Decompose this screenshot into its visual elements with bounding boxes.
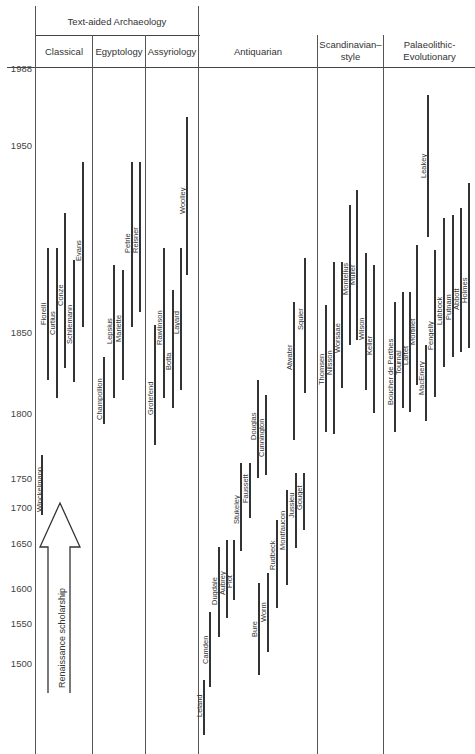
- col-divider-5: [383, 35, 384, 754]
- scholar-label: Müller: [349, 265, 357, 285]
- scholar-label: Evans: [75, 240, 83, 261]
- column-header-egyptology: Egyptology: [93, 46, 145, 57]
- group-header-text-aided: Text-aided Archaeology: [36, 16, 198, 27]
- y-tick-label: 1950: [0, 140, 32, 151]
- y-tick-label: 1988: [0, 63, 32, 74]
- scholar-label: Rudbeck: [269, 540, 277, 570]
- scholar-label: Stukeley: [233, 495, 241, 524]
- column-header-palaeolithic-line2: Evolutionary: [384, 51, 475, 62]
- scholar-label: Schliemann: [66, 305, 74, 344]
- lifespan-bar: [293, 302, 295, 440]
- scholar-label: Camden: [202, 636, 210, 664]
- lifespan-bar: [172, 290, 174, 408]
- scholar-label: Montfaucon: [279, 511, 287, 550]
- header-divider-mid: [7, 67, 475, 68]
- scholar-label: Conze: [57, 284, 65, 306]
- scholar-label: Bure: [251, 621, 259, 637]
- scholar-label: Botta: [165, 352, 173, 370]
- axis-line: [35, 6, 36, 754]
- column-header-palaeolithic-line1: Palaeolithic-: [384, 39, 475, 50]
- y-tick-label: 1850: [0, 327, 32, 338]
- col-divider-1: [92, 35, 93, 754]
- column-header-antiquarian: Antiquarian: [199, 46, 317, 57]
- scholar-label: Layard: [173, 311, 181, 334]
- col-divider-3: [198, 6, 199, 754]
- scholar-label: Holmes: [461, 278, 469, 303]
- scholar-label: Mortillet: [409, 319, 417, 345]
- column-header-scandinavian-line2: style: [318, 51, 383, 62]
- scholar-label: Lartet: [402, 346, 410, 365]
- y-tick-label: 1800: [0, 408, 32, 419]
- scholar-label: Champollion: [96, 378, 104, 420]
- scholar-label: Atwater: [286, 345, 294, 370]
- column-header-scandinavian-line1: Scandinavian–: [318, 39, 383, 50]
- header-divider-top: [35, 35, 200, 36]
- scholar-label: Leakey: [420, 154, 428, 178]
- scholar-label: Pengelly: [427, 321, 435, 350]
- scholar-label: Mariette: [115, 315, 123, 342]
- scholar-label: Curtius: [49, 311, 57, 335]
- lifespan-bar: [443, 218, 445, 367]
- scholar-label: Lubbock: [436, 297, 444, 325]
- scholar-label: Lepsius: [106, 318, 114, 344]
- scholar-label: Worsaae: [334, 323, 342, 353]
- timeline-chart: Text-aided Archaeology Classical Egyptol…: [0, 0, 475, 754]
- scholar-label: Grotefend: [147, 382, 155, 415]
- scholar-label: Reisner: [132, 227, 140, 253]
- scholar-label: Nilsson: [326, 350, 334, 375]
- y-tick-label: 1550: [0, 618, 32, 629]
- scholar-label: Rawlinson: [156, 310, 164, 345]
- y-tick-label: 1500: [0, 658, 32, 669]
- scholar-label: Worm: [260, 602, 268, 622]
- col-divider-4: [317, 35, 318, 754]
- scholar-label: Cunnington: [258, 419, 266, 457]
- y-tick-label: 1700: [0, 502, 32, 513]
- scholar-label: Fiorelli: [40, 303, 48, 325]
- y-tick-label: 1600: [0, 583, 32, 594]
- lifespan-bar: [452, 215, 454, 357]
- lifespan-bar: [233, 540, 235, 600]
- column-header-assyriology: Assyriology: [145, 46, 199, 57]
- scholar-label: Squier: [297, 308, 305, 330]
- scholar-label: Gouget: [296, 485, 304, 510]
- column-header-classical: Classical: [36, 46, 92, 57]
- scholar-label: Keller: [366, 336, 374, 355]
- renaissance-scholarship-label: Renaissance scholarship: [57, 588, 67, 688]
- scholar-label: Leland: [196, 694, 204, 717]
- y-tick-label: 1650: [0, 538, 32, 549]
- lifespan-bar: [468, 183, 470, 348]
- y-tick-label: 1750: [0, 473, 32, 484]
- scholar-label: Woolley: [179, 187, 187, 214]
- scholar-label: Faussett: [242, 474, 250, 503]
- scholar-label: MacEnery: [418, 361, 426, 395]
- scholar-label: Plot: [226, 575, 234, 588]
